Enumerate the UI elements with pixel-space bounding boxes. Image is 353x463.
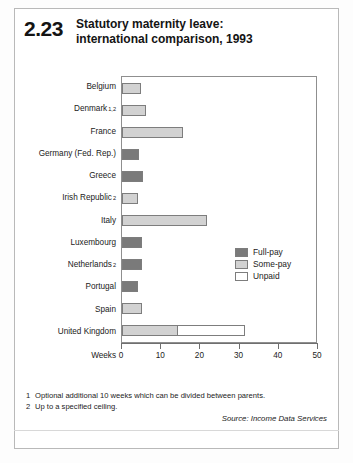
bar (122, 281, 178, 292)
footer-divider (14, 430, 339, 431)
category-label-text: Luxembourg (70, 239, 116, 247)
legend-swatch-unpaid (235, 272, 248, 281)
footnote-number: 1 (26, 390, 35, 401)
figure-number: 2.23 (24, 16, 76, 39)
bar-segment-full (122, 149, 139, 160)
x-axis-tick (239, 343, 240, 349)
category-label-text: Belgium (86, 83, 116, 91)
bar (122, 259, 184, 270)
category-label: Irish Republic2 (22, 187, 120, 209)
bar (122, 215, 250, 226)
legend-swatch-some (235, 260, 248, 269)
category-label: Denmark1,2 (22, 98, 120, 120)
bar-row (122, 143, 316, 165)
bar (122, 237, 184, 248)
bar (122, 325, 277, 336)
category-label: Italy (22, 210, 120, 232)
bar-segment-full (122, 237, 142, 248)
chart: BelgiumDenmark1,2FranceGermany (Fed. Rep… (14, 58, 339, 383)
category-label: Spain (22, 299, 120, 321)
category-label-text: Germany (Fed. Rep.) (39, 150, 116, 158)
bar-segment-full (122, 171, 143, 182)
bar-row (122, 187, 316, 209)
x-axis-title: Weeks (22, 352, 116, 360)
x-axis-tick-label: 50 (312, 352, 321, 360)
plot-wrapper: BelgiumDenmark1,2FranceGermany (Fed. Rep… (14, 58, 339, 383)
bar-segment-some (122, 105, 146, 116)
category-label-text: Irish Republic (62, 194, 112, 202)
bar-segment-some (122, 127, 183, 138)
bar-row (122, 121, 316, 143)
category-label-text: Spain (95, 306, 116, 314)
bar-segment-some (122, 303, 142, 314)
bar-segment-some (122, 215, 207, 226)
category-label: Greece (22, 165, 120, 187)
bar-series (122, 77, 316, 342)
x-axis-tick (317, 343, 318, 349)
legend-label: Full-pay (253, 248, 283, 256)
category-labels: BelgiumDenmark1,2FranceGermany (Fed. Rep… (22, 76, 120, 343)
legend-label: Unpaid (253, 272, 280, 280)
category-label: Netherlands2 (22, 254, 120, 276)
category-label-text: Netherlands (68, 261, 112, 269)
legend-swatch-full (235, 248, 248, 257)
plot-frame (121, 76, 317, 343)
bar (122, 193, 178, 204)
x-axis-tick (199, 343, 200, 349)
legend-item: Unpaid (235, 271, 313, 282)
x-axis-line (121, 343, 317, 344)
category-label: Luxembourg (22, 232, 120, 254)
footnotes: 1Optional additional 10 weeks which can … (14, 390, 339, 412)
category-label: Portugal (22, 276, 120, 298)
bar (122, 83, 182, 94)
x-axis-tick (160, 343, 161, 349)
category-label-text: France (91, 128, 116, 136)
figure-title: Statutory maternity leave: international… (76, 16, 253, 47)
category-label: Belgium (22, 76, 120, 98)
category-label: United Kingdom (22, 321, 120, 343)
footnote-text: Up to a specified ceiling. (35, 401, 117, 412)
legend-item: Full-pay (235, 247, 313, 258)
bar-row (122, 298, 316, 320)
footnote: 1Optional additional 10 weeks which can … (26, 390, 327, 401)
figure-title-line2: international comparison, 1993 (76, 32, 253, 47)
category-label-text: United Kingdom (58, 328, 116, 336)
x-axis-tick-label: 20 (195, 352, 204, 360)
bar (122, 171, 186, 182)
bar (122, 149, 180, 160)
x-axis-tick-label: 0 (119, 352, 124, 360)
legend: Full-paySome-payUnpaid (235, 247, 313, 283)
x-axis-tick-label: 40 (273, 352, 282, 360)
bar (122, 303, 184, 314)
bar-row (122, 320, 316, 342)
bar-segment-some (122, 325, 178, 336)
bar-segment-full (122, 281, 138, 292)
x-axis (121, 343, 317, 351)
bar-segment-some (122, 193, 138, 204)
category-label-text: Italy (101, 217, 116, 225)
legend-item: Some-pay (235, 259, 313, 270)
x-axis-tick-label: 10 (156, 352, 165, 360)
bar-segment-some (122, 83, 141, 94)
legend-label: Some-pay (253, 260, 291, 268)
figure-title-line1: Statutory maternity leave: (76, 17, 223, 31)
bar (122, 127, 231, 138)
bar-row (122, 209, 316, 231)
x-axis-tick (121, 343, 122, 349)
bar-row (122, 165, 316, 187)
category-label-text: Portugal (86, 283, 117, 291)
footnote-number: 2 (26, 401, 35, 412)
bar-row (122, 77, 316, 99)
bar-segment-full (122, 259, 142, 270)
x-axis-tick-labels: 01020304050 (121, 352, 317, 364)
category-label-text: Greece (89, 172, 116, 180)
source-line: Source: Income Data Services (14, 414, 339, 423)
category-label: France (22, 121, 120, 143)
footnote: 2Up to a specified ceiling. (26, 401, 327, 412)
bar-row (122, 99, 316, 121)
category-label: Germany (Fed. Rep.) (22, 143, 120, 165)
footnote-text: Optional additional 10 weeks which can b… (35, 390, 265, 401)
bar (122, 105, 190, 116)
bar-segment-unpaid (177, 325, 245, 336)
figure-header: 2.23 Statutory maternity leave: internat… (14, 8, 339, 56)
